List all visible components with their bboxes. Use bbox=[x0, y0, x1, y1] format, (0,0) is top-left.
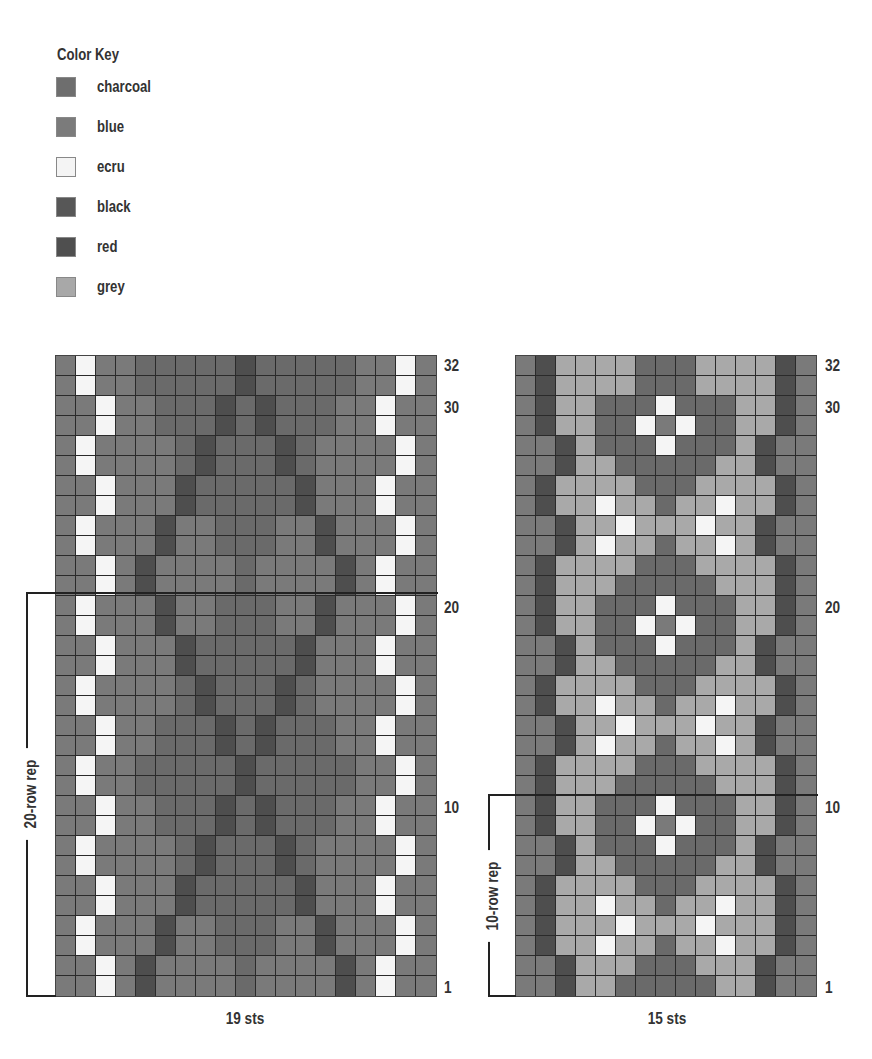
chart-cell bbox=[316, 476, 336, 496]
chart-cell bbox=[276, 876, 296, 896]
chart-cell bbox=[156, 916, 176, 936]
chart-cell bbox=[236, 556, 256, 576]
chart-cell bbox=[636, 976, 656, 996]
chart-cell bbox=[676, 416, 696, 436]
chart-cell bbox=[76, 636, 96, 656]
chart-cell bbox=[316, 616, 336, 636]
chart-cell bbox=[296, 936, 316, 956]
chart-cell bbox=[316, 376, 336, 396]
chart-cell bbox=[276, 896, 296, 916]
chart-cell bbox=[696, 716, 716, 736]
chart-cell bbox=[616, 576, 636, 596]
chart-cell bbox=[276, 376, 296, 396]
chart-cell bbox=[416, 916, 436, 936]
chart-cell bbox=[576, 856, 596, 876]
chart-cell bbox=[416, 416, 436, 436]
chart-cell bbox=[396, 776, 416, 796]
chart-cell bbox=[656, 916, 676, 936]
chart-cell bbox=[276, 596, 296, 616]
chart-cell bbox=[516, 956, 536, 976]
chart-cell bbox=[536, 356, 556, 376]
chart-cell bbox=[296, 636, 316, 656]
chart-cell bbox=[156, 956, 176, 976]
chart-cell bbox=[716, 456, 736, 476]
chart-cell bbox=[716, 716, 736, 736]
chart-cell bbox=[796, 796, 816, 816]
chart-cell bbox=[376, 456, 396, 476]
chart-cell bbox=[776, 696, 796, 716]
chart-cell bbox=[616, 956, 636, 976]
chart-cell bbox=[396, 936, 416, 956]
chart-cell bbox=[596, 876, 616, 896]
chart-cell bbox=[96, 796, 116, 816]
chart-cell bbox=[376, 956, 396, 976]
chart-cell bbox=[376, 656, 396, 676]
chart-cell bbox=[356, 556, 376, 576]
chart-cell bbox=[396, 756, 416, 776]
chart-cell bbox=[156, 496, 176, 516]
chart-cell bbox=[656, 416, 676, 436]
chart-cell bbox=[696, 516, 716, 536]
chart-cell bbox=[396, 956, 416, 976]
chart-cell bbox=[516, 656, 536, 676]
chart-cell bbox=[616, 796, 636, 816]
chart-cell bbox=[196, 496, 216, 516]
chart-cell bbox=[616, 656, 636, 676]
chart-cell bbox=[536, 696, 556, 716]
chart-cell bbox=[176, 596, 196, 616]
chart-cell bbox=[236, 416, 256, 436]
chart-cell bbox=[796, 936, 816, 956]
chart-cell bbox=[576, 936, 596, 956]
chart-cell bbox=[556, 396, 576, 416]
chart-cell bbox=[756, 596, 776, 616]
chart-cell bbox=[796, 756, 816, 776]
chart-cell bbox=[176, 496, 196, 516]
chart-cell bbox=[296, 656, 316, 676]
chart-cell bbox=[316, 876, 336, 896]
chart-cell bbox=[676, 616, 696, 636]
chart-cell bbox=[96, 656, 116, 676]
chart-cell bbox=[196, 696, 216, 716]
chart-cell bbox=[796, 536, 816, 556]
chart-cell bbox=[116, 936, 136, 956]
chart-cell bbox=[196, 616, 216, 636]
chart-cell bbox=[756, 456, 776, 476]
chart-cell bbox=[376, 896, 396, 916]
right-row-label-1: 1 bbox=[825, 978, 833, 998]
chart-cell bbox=[616, 736, 636, 756]
chart-cell bbox=[216, 556, 236, 576]
chart-cell bbox=[696, 616, 716, 636]
chart-cell bbox=[636, 356, 656, 376]
chart-cell bbox=[176, 616, 196, 636]
chart-cell bbox=[556, 556, 576, 576]
chart-cell bbox=[396, 556, 416, 576]
chart-cell bbox=[576, 836, 596, 856]
chart-cell bbox=[576, 556, 596, 576]
chart-cell bbox=[176, 916, 196, 936]
chart-cell bbox=[376, 396, 396, 416]
chart-cell bbox=[176, 476, 196, 496]
chart-cell bbox=[696, 356, 716, 376]
chart-cell bbox=[556, 576, 576, 596]
chart-cell bbox=[776, 876, 796, 896]
chart-cell bbox=[676, 456, 696, 476]
left-repeat-label: 20-row rep bbox=[22, 748, 40, 840]
chart-cell bbox=[716, 616, 736, 636]
chart-cell bbox=[596, 556, 616, 576]
chart-cell bbox=[676, 816, 696, 836]
key-item-blue: blue bbox=[56, 116, 130, 138]
chart-cell bbox=[716, 376, 736, 396]
chart-cell bbox=[556, 956, 576, 976]
chart-cell bbox=[56, 696, 76, 716]
chart-cell bbox=[116, 876, 136, 896]
chart-cell bbox=[96, 896, 116, 916]
chart-cell bbox=[416, 356, 436, 376]
chart-cell bbox=[736, 576, 756, 596]
chart-cell bbox=[756, 396, 776, 416]
chart-cell bbox=[736, 976, 756, 996]
chart-cell bbox=[56, 716, 76, 736]
chart-cell bbox=[416, 836, 436, 856]
chart-cell bbox=[676, 436, 696, 456]
chart-cell bbox=[196, 716, 216, 736]
chart-cell bbox=[556, 496, 576, 516]
